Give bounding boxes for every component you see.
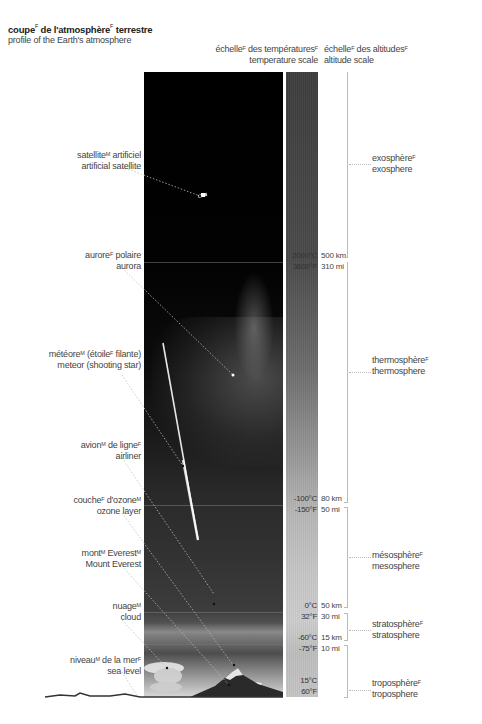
label-mount-everest: montM EverestM Mount Everest <box>82 548 141 570</box>
connector-mesosphere <box>349 557 371 558</box>
connector-troposphere <box>349 690 371 691</box>
ozone-band <box>144 623 283 641</box>
temp-label-sea-level: 15°C60°F <box>300 675 317 697</box>
label-aurora: auroreF polaire aurora <box>85 250 141 272</box>
temp-label-80km: -100°C-150°F <box>294 493 317 515</box>
label-ozone-layer: coucheF d'ozoneM ozone layer <box>73 495 141 517</box>
bracket-tick <box>344 640 348 641</box>
atmosphere-sky-panel <box>144 72 283 697</box>
bracket-exosphere <box>347 72 348 257</box>
connector-exosphere <box>349 164 371 165</box>
alt-label-50km: 50 km30 mi <box>321 600 342 622</box>
diagram-title-en: profile of the Earth's atmosphere <box>8 35 131 45</box>
label-sea-level: niveauM de la merF sea level <box>70 655 141 677</box>
aurora-curtain <box>234 272 274 382</box>
label-artificial-satellite: satelliteM artificiel artificial satelli… <box>77 150 141 172</box>
bracket-thermosphere <box>347 262 348 502</box>
diagram-title-fr: coupeF de l'atmosphèreF terrestre <box>8 24 152 35</box>
bracket-troposphere <box>347 645 348 697</box>
bracket-tick <box>344 257 348 258</box>
temp-label-15km: -60°C-75°F <box>298 632 317 654</box>
boundary-line-80km <box>144 505 283 506</box>
bracket-tick <box>344 607 348 608</box>
temperature-scale-header: échelleF des températuresF temperature s… <box>215 44 318 66</box>
bracket-tick <box>344 697 348 698</box>
bracket-stratosphere <box>347 613 348 640</box>
label-cloud: nuageM cloud <box>113 601 141 623</box>
label-meteor: météoreM (étoileF filante) meteor (shoot… <box>49 349 141 371</box>
temp-label-50km: 0°C32°F <box>301 600 317 622</box>
connector-stratosphere <box>349 630 371 631</box>
alt-label-80km: 80 km50 mi <box>321 493 342 515</box>
layer-label-troposphere: troposphèreFtroposphere <box>372 678 421 700</box>
boundary-line-15km <box>144 644 283 645</box>
layer-label-stratosphere: stratosphèreFstratosphere <box>372 619 423 641</box>
temp-label-500km: 2000°C3600°F <box>292 250 317 272</box>
alt-label-500km: 500 km310 mi <box>321 250 346 272</box>
bracket-tick <box>344 502 348 503</box>
alt-label-15km: 15 km10 mi <box>321 632 342 654</box>
layer-label-thermosphere: thermosphèreFthermosphere <box>372 355 428 377</box>
bracket-mesosphere <box>347 507 348 607</box>
boundary-line-50km <box>144 612 283 613</box>
label-airliner: avionM de ligneF airliner <box>81 440 141 462</box>
layer-label-mesosphere: mésosphèreFmesosphere <box>372 550 423 572</box>
connector-thermosphere <box>349 372 371 373</box>
altitude-scale-header: échelleF des altitudesF altitude scale <box>324 44 408 66</box>
layer-label-exosphere: exosphèreFexosphere <box>372 153 415 175</box>
boundary-line-500km <box>144 262 283 263</box>
